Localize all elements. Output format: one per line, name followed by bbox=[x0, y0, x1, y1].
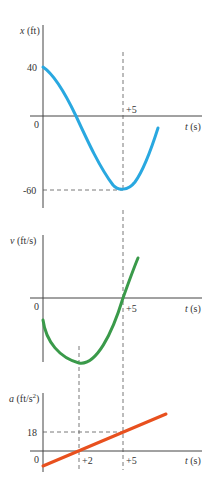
velocity-chart: v (ft/s) 0 +5 t (s) bbox=[10, 210, 202, 470]
y-label-v: v (ft/s) bbox=[10, 235, 36, 247]
velocity-curve bbox=[43, 258, 138, 363]
tick-plus2: +2 bbox=[82, 455, 93, 466]
motion-graphs: x (ft) 40 0 +5 t (s) -60 v (ft/s) 0 +5 t… bbox=[0, 0, 215, 491]
zero-label: 0 bbox=[34, 119, 39, 130]
y-label-a: a (ft/s2) bbox=[9, 392, 39, 405]
position-curve bbox=[43, 67, 158, 189]
x-label-t: t (s) bbox=[185, 303, 201, 315]
tick-plus5: +5 bbox=[126, 455, 137, 466]
tick-plus5: +5 bbox=[126, 303, 137, 314]
tick-40: 40 bbox=[27, 62, 37, 73]
y-label-x: x (ft) bbox=[19, 25, 40, 37]
x-label-t: t (s) bbox=[185, 455, 201, 467]
acceleration-chart: a (ft/s2) 18 0 +2 +5 t (s) bbox=[9, 392, 202, 472]
tick-18: 18 bbox=[27, 427, 37, 438]
position-chart: x (ft) 40 0 +5 t (s) -60 bbox=[19, 25, 202, 208]
x-label-t: t (s) bbox=[185, 121, 201, 133]
acceleration-line bbox=[43, 414, 166, 466]
zero-label: 0 bbox=[34, 301, 39, 312]
zero-label: 0 bbox=[34, 454, 39, 465]
tick-plus5: +5 bbox=[126, 104, 137, 115]
tick-minus60: -60 bbox=[23, 185, 36, 196]
